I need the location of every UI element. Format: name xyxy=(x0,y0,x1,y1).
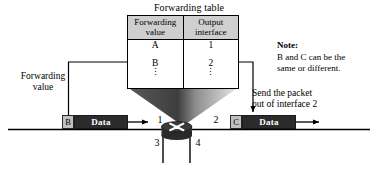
figure-canvas: Forwarding table Forwarding value Output… xyxy=(0,0,378,170)
forwarding-value-label-line1: Forwarding xyxy=(8,71,78,82)
table-row: B ⋮ 2 ⋮ xyxy=(128,58,238,88)
table-header-row: Forwarding value Output interface xyxy=(128,16,238,40)
forwarding-value-label-line2: value xyxy=(8,82,78,93)
forwarding-table-title: Forwarding table xyxy=(0,2,378,13)
cell-forwarding-value-a: A xyxy=(128,40,183,59)
header-output-interface-line2: interface xyxy=(184,27,239,37)
interface-number-3: 3 xyxy=(152,137,162,148)
send-packet-label-line1: Send the packet xyxy=(252,88,372,99)
header-forwarding-value: Forwarding value xyxy=(128,16,183,40)
value-1: 1 xyxy=(184,40,239,51)
note-label: Note: xyxy=(277,40,377,52)
value-a: A xyxy=(128,40,183,51)
outgoing-packet-payload: Data xyxy=(242,115,296,129)
table-row: A 1 xyxy=(128,40,238,59)
ellipsis-icon: ⋮ xyxy=(184,69,239,76)
interface-number-1: 1 xyxy=(155,114,165,125)
header-forwarding-value-line2: value xyxy=(128,27,183,37)
incoming-packet: B Data xyxy=(62,115,128,129)
ellipsis-icon: ⋮ xyxy=(128,69,183,76)
cell-output-interface-2: 2 ⋮ xyxy=(183,58,238,88)
send-packet-label-line2: out of interface 2 xyxy=(252,99,372,110)
forwarding-table-body: A 1 B ⋮ 2 ⋮ xyxy=(128,40,238,89)
cell-forwarding-value-b: B ⋮ xyxy=(128,58,183,88)
interface-number-2: 2 xyxy=(211,114,221,125)
header-output-interface-line1: Output xyxy=(184,17,239,27)
incoming-packet-tag: B xyxy=(62,115,74,129)
interface-number-4: 4 xyxy=(193,137,203,148)
forwarding-value-label: Forwarding value xyxy=(8,71,78,93)
note-line-1: B and C can be the xyxy=(277,52,377,64)
forwarding-table-head: Forwarding value Output interface xyxy=(128,16,238,40)
note-block: Note: B and C can be the same or differe… xyxy=(277,40,377,75)
note-line-2: same or different. xyxy=(277,63,377,75)
cell-output-interface-1: 1 xyxy=(183,40,238,59)
outgoing-packet: C Data xyxy=(230,115,296,129)
header-forwarding-value-line1: Forwarding xyxy=(128,17,183,27)
forwarding-table: Forwarding value Output interface A 1 xyxy=(127,15,239,89)
forwarding-table-grid: Forwarding value Output interface A 1 xyxy=(128,16,238,88)
header-output-interface: Output interface xyxy=(183,16,238,40)
outgoing-packet-tag: C xyxy=(230,115,242,129)
send-packet-label: Send the packet out of interface 2 xyxy=(252,88,372,110)
incoming-packet-payload: Data xyxy=(74,115,128,129)
